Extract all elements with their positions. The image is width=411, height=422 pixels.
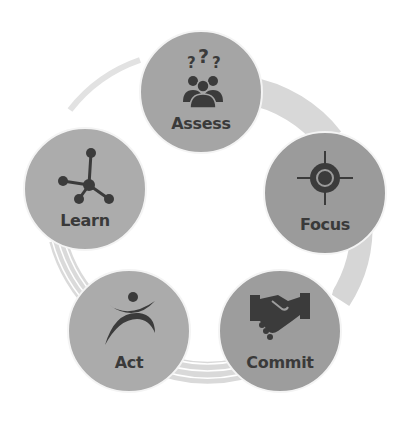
node-label: Act [69, 353, 189, 372]
people-question-icon: ? ? ? [141, 46, 261, 110]
node-act: Act [67, 269, 191, 393]
node-commit: Commit [218, 269, 342, 393]
node-label: Commit [220, 353, 340, 372]
svg-text:?: ? [187, 54, 196, 72]
cycle-diagram: ? ? ? Assess Focus [0, 0, 411, 422]
node-focus: Focus [263, 131, 387, 255]
node-label: Focus [265, 215, 385, 234]
node-assess: ? ? ? Assess [139, 30, 263, 154]
target-icon [265, 147, 385, 211]
node-learn: Learn [23, 127, 147, 251]
svg-text:?: ? [198, 46, 209, 67]
node-label: Learn [25, 211, 145, 230]
node-label: Assess [141, 114, 261, 133]
person-act-icon [69, 285, 189, 349]
handshake-icon [220, 285, 340, 349]
network-icon [25, 143, 145, 207]
svg-text:?: ? [212, 54, 221, 72]
